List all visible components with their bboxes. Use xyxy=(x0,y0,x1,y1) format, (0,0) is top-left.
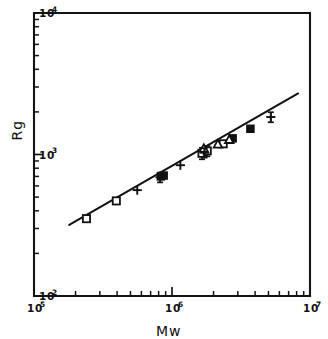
svg-text:7: 7 xyxy=(316,300,321,309)
y-tick-label: 104 xyxy=(39,5,57,19)
y-tick-label: 102 xyxy=(39,288,57,302)
data-point-open-square xyxy=(83,215,90,222)
svg-text:4: 4 xyxy=(52,5,57,14)
data-point-filled-square xyxy=(247,125,254,132)
svg-text:6: 6 xyxy=(178,300,183,309)
data-point-open-square xyxy=(113,197,120,204)
svg-text:3: 3 xyxy=(52,146,57,155)
figure-container: 105106107102103104MwRg xyxy=(0,0,328,339)
axis-frame-left-bottom xyxy=(34,13,310,296)
y-axis-title: Rg xyxy=(9,120,25,141)
x-tick-label: 106 xyxy=(165,300,183,314)
axis-frame-top-right xyxy=(34,13,310,296)
svg-text:2: 2 xyxy=(52,288,57,297)
log-log-scatter-plot: 105106107102103104MwRg xyxy=(0,0,328,339)
x-tick-label: 107 xyxy=(303,300,321,314)
y-tick-label: 103 xyxy=(39,146,57,160)
x-axis-title: Mw xyxy=(156,323,182,339)
power-law-fit-line xyxy=(69,93,298,224)
